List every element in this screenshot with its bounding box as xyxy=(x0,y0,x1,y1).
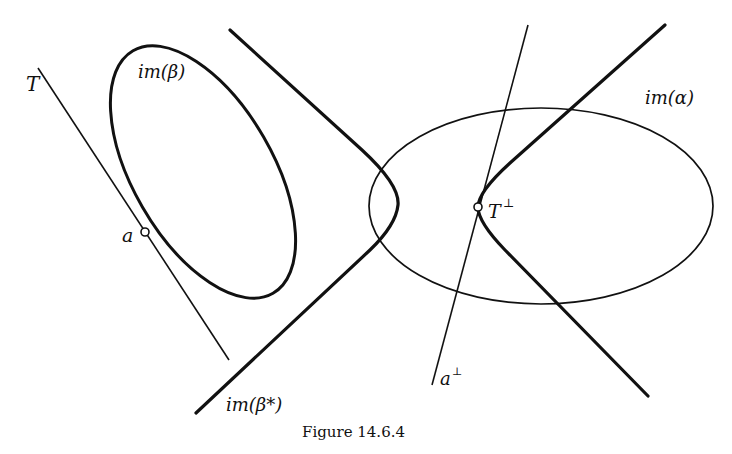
label-T-perp: T ⊥ xyxy=(488,196,514,222)
ellipse-im-beta xyxy=(72,16,333,328)
figure-caption: Figure 14.6.4 xyxy=(302,423,405,441)
figure-diagram: T im(β) a im(α) T ⊥ a ⊥ im(β*) Figure 14… xyxy=(0,0,732,454)
label-T: T xyxy=(26,72,41,96)
label-T-perp-base: T xyxy=(488,200,502,222)
label-a-perp: a ⊥ xyxy=(440,365,462,389)
label-a-perp-sup: ⊥ xyxy=(452,365,462,378)
point-T-perp xyxy=(474,203,482,211)
hyperbola-right-branch xyxy=(478,25,665,396)
tangent-line-T xyxy=(38,68,229,360)
label-T-perp-sup: ⊥ xyxy=(503,196,514,210)
label-im-beta: im(β) xyxy=(138,61,185,82)
point-a xyxy=(141,228,149,236)
label-a: a xyxy=(122,224,133,246)
label-a-perp-base: a xyxy=(440,368,451,389)
label-im-alpha: im(α) xyxy=(645,87,694,108)
label-im-beta-star: im(β*) xyxy=(226,394,282,415)
